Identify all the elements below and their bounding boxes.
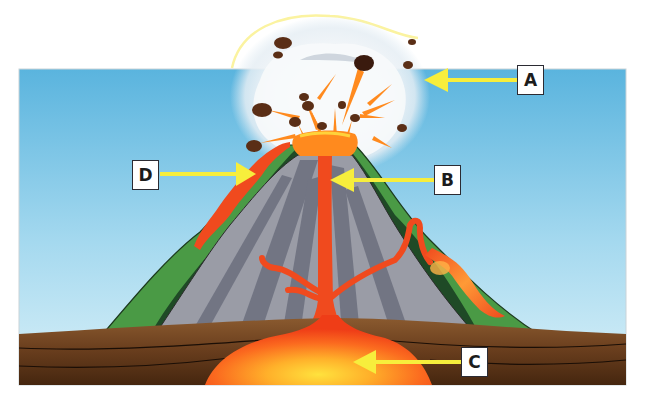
- label-b: B: [434, 165, 461, 195]
- label-d-text: D: [138, 165, 152, 185]
- label-a-text: A: [524, 70, 537, 90]
- label-c: C: [461, 347, 488, 377]
- label-c-text: C: [468, 352, 480, 372]
- flank-lava-glow: [430, 261, 450, 275]
- label-b-text: B: [441, 170, 454, 190]
- label-a: A: [517, 65, 544, 95]
- volcano-diagram: [0, 0, 654, 402]
- label-d: D: [132, 160, 159, 190]
